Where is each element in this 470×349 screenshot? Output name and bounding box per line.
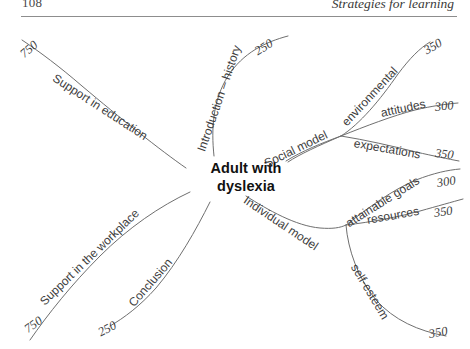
- book-page: 108 Strategies for learning A: [0, 0, 470, 349]
- central-node-line-1: Adult with: [190, 160, 302, 178]
- branch-value-attitudes: 300: [434, 98, 454, 115]
- branch-value-resources: 350: [433, 203, 454, 220]
- branch-value-self-esteem: 350: [428, 324, 449, 342]
- branch-value-attainable-goals: 300: [436, 173, 457, 191]
- branch-value-expectations: 350: [434, 146, 454, 163]
- central-node-line-2: dyslexia: [190, 178, 302, 196]
- central-node: Adult with dyslexia: [190, 160, 302, 195]
